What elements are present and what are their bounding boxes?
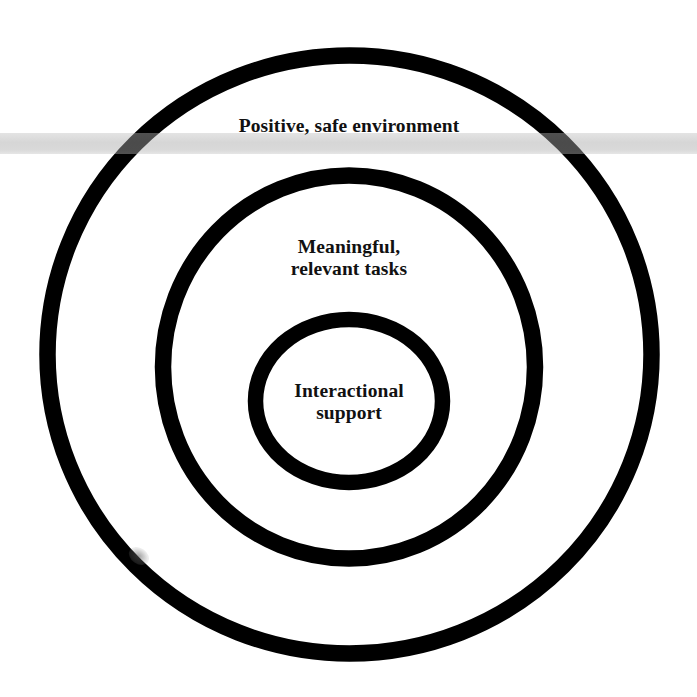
inner-ring-label-line-2: support [269, 402, 429, 424]
inner-ring-label-line-1: Interactional [269, 380, 429, 402]
middle-ring-label-line-1: Meaningful, [249, 236, 449, 258]
middle-ring-label-line-2: relevant tasks [249, 258, 449, 280]
inner-ring-label: Interactional support [269, 380, 429, 424]
middle-ring-label: Meaningful, relevant tasks [249, 236, 449, 280]
middle-ring [163, 176, 535, 559]
outer-ring-label-line-1: Positive, safe environment [149, 115, 549, 137]
rings-graphic [0, 0, 697, 697]
outer-ring-label: Positive, safe environment [149, 115, 549, 137]
concentric-diagram: Positive, safe environment Meaningful, r… [0, 0, 697, 697]
